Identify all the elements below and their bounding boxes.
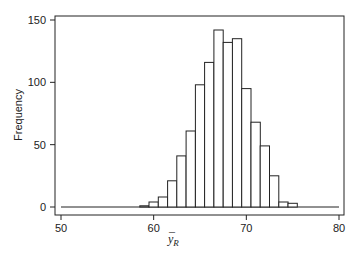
histogram-bar [195, 85, 204, 207]
histogram-bar [270, 176, 279, 207]
histogram-bars [140, 30, 297, 207]
histogram-bar [223, 42, 232, 207]
x-tick-label: 70 [240, 222, 252, 234]
histogram-bar [251, 122, 260, 207]
y-tick-label: 50 [34, 139, 46, 151]
x-tick-label: 60 [148, 222, 160, 234]
x-tick-label: 50 [55, 222, 67, 234]
histogram-bar [149, 202, 158, 207]
histogram-bar [186, 131, 195, 207]
histogram-bar [279, 202, 288, 207]
y-tick-label: 150 [28, 14, 46, 26]
histogram-bar [242, 89, 251, 207]
y-axis: 050100150 [28, 14, 55, 213]
histogram-bar [214, 30, 223, 207]
histogram-bar [168, 181, 177, 207]
histogram-bar [260, 146, 269, 207]
y-axis-title: Frequency [12, 89, 24, 141]
x-axis: 50607080 [55, 215, 345, 234]
histogram-bar [232, 39, 241, 207]
histogram-bar [205, 62, 214, 207]
x-axis-title: ¯yR [168, 232, 179, 248]
histogram-chart: 050100150 50607080 Frequency [0, 0, 361, 263]
y-tick-label: 100 [28, 76, 46, 88]
y-tick-label: 0 [40, 201, 46, 213]
histogram-bar [140, 206, 149, 207]
x-axis-title-accent: ¯ [169, 231, 175, 246]
histogram-bar [288, 203, 297, 207]
histogram-bar [177, 156, 186, 207]
histogram-bar [158, 197, 167, 207]
x-tick-label: 80 [333, 222, 345, 234]
